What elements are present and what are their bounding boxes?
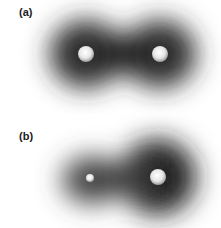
density-cloud-b <box>62 139 196 215</box>
electron-cloud-b <box>0 114 221 228</box>
nucleus-small-icon <box>86 174 94 182</box>
density-cloud-a <box>50 20 196 88</box>
panel-a-nonpolar-bond: (a) <box>0 0 221 114</box>
panel-b-polar-bond: (b) <box>0 114 221 228</box>
nucleus-large-icon <box>150 169 166 185</box>
nucleus-icon <box>78 46 94 62</box>
electron-cloud-a <box>0 0 221 114</box>
nucleus-icon <box>152 46 168 62</box>
